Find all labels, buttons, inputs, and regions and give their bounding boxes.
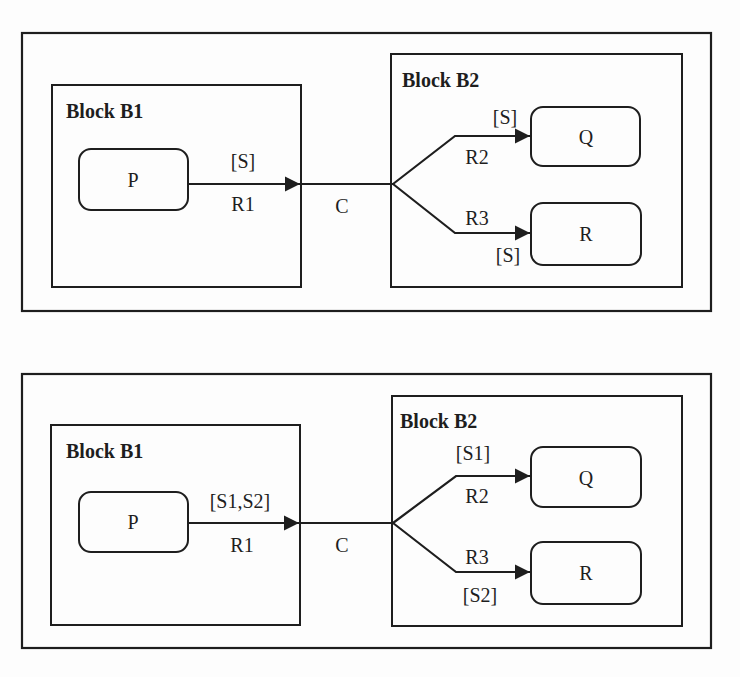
state-p-label: P	[127, 169, 138, 191]
edge-r1-label: R1	[230, 534, 253, 556]
edge-r3	[393, 184, 530, 233]
edge-r2-guard: [S]	[493, 106, 517, 128]
block-b1-label: Block B1	[66, 440, 143, 462]
edge-r2-guard: [S1]	[456, 442, 490, 464]
state-r-label: R	[579, 223, 593, 245]
state-p-label: P	[127, 511, 138, 533]
state-r-label: R	[579, 562, 593, 584]
diagram-top: Block B1 P [S] R1 C Block B2 Q R [S] R2 …	[22, 33, 711, 311]
diagram-bottom: Block B1 P [S1,S2] R1 C Block B2 Q R [S1…	[22, 374, 711, 648]
edge-r3-guard: [S2]	[463, 584, 497, 606]
edge-r1-label: R1	[231, 193, 254, 215]
edge-r3-guard: [S]	[496, 244, 520, 266]
edge-r3-label: R3	[465, 207, 488, 229]
edge-r1-guard: [S]	[231, 150, 255, 172]
block-b2-label: Block B2	[402, 69, 479, 91]
edge-c-label: C	[335, 195, 348, 217]
edge-c-label: C	[335, 534, 348, 556]
outer-frame	[22, 33, 711, 311]
edge-r2	[393, 476, 530, 523]
block-b2: Block B2 Q R	[391, 54, 682, 287]
state-q-label: Q	[579, 467, 594, 489]
block-b2-label: Block B2	[400, 410, 477, 432]
block-b2: Block B2 Q R	[392, 396, 682, 626]
edge-r2-label: R2	[465, 146, 488, 168]
outer-frame	[22, 374, 711, 648]
edge-r3-label: R3	[465, 546, 488, 568]
edge-r1-guard: [S1,S2]	[210, 490, 271, 512]
edge-r3	[393, 523, 530, 572]
block-b1: Block B1 P	[52, 85, 301, 287]
block-b1-label: Block B1	[66, 100, 143, 122]
block-b1: Block B1 P	[51, 425, 300, 625]
diagram-canvas: Block B1 P [S] R1 C Block B2 Q R [S] R2 …	[0, 0, 740, 677]
edge-r2-label: R2	[465, 485, 488, 507]
state-q-label: Q	[579, 126, 594, 148]
edge-r2	[393, 136, 530, 184]
